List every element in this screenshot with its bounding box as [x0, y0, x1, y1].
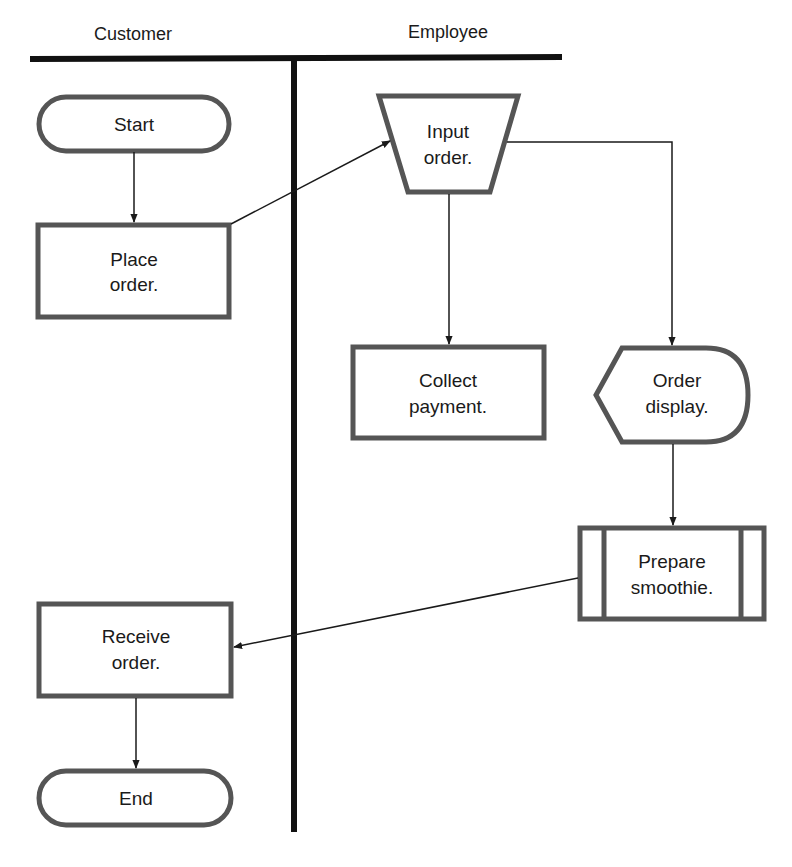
node-order-display[interactable]: Order display.: [596, 348, 748, 442]
node-label: End: [119, 788, 153, 809]
node-label: Start: [114, 114, 155, 135]
node-label-line1: Order: [653, 370, 702, 391]
node-label-line2: payment.: [409, 396, 487, 417]
lane-label-customer: Customer: [94, 24, 172, 44]
node-label-line1: Place: [110, 249, 158, 270]
node-label-line1: Prepare: [638, 551, 706, 572]
node-label-line2: smoothie.: [631, 577, 713, 598]
process-shape: [353, 347, 544, 438]
node-label-line1: Collect: [419, 370, 478, 391]
node-input-order[interactable]: Input order.: [379, 96, 518, 192]
process-shape: [38, 225, 229, 317]
node-end[interactable]: End: [39, 771, 231, 825]
arrow-prepare-smoothie-to-receive-order: [234, 578, 578, 647]
flowchart-canvas: Customer Employee Start Place order. Inp…: [0, 0, 792, 867]
node-label-line2: display.: [645, 396, 708, 417]
arrow-place-order-to-input-order: [231, 141, 390, 224]
predefined-process-shape: [580, 528, 764, 619]
node-label-line1: Input: [427, 121, 470, 142]
node-label-line1: Receive: [102, 626, 171, 647]
node-prepare-smoothie[interactable]: Prepare smoothie.: [580, 528, 764, 619]
node-collect-payment[interactable]: Collect payment.: [353, 347, 544, 438]
manual-input-shape: [379, 96, 518, 192]
node-label-line2: order.: [424, 147, 473, 168]
process-shape: [39, 604, 231, 696]
arrow-input-order-to-order-display: [507, 142, 672, 345]
node-start[interactable]: Start: [39, 97, 229, 151]
node-label-line2: order.: [110, 274, 159, 295]
node-place-order[interactable]: Place order.: [38, 225, 229, 317]
display-shape: [596, 348, 748, 442]
node-receive-order[interactable]: Receive order.: [39, 604, 231, 696]
lane-label-employee: Employee: [408, 22, 488, 42]
lane-header-divider: [30, 57, 562, 59]
node-label-line2: order.: [112, 652, 161, 673]
